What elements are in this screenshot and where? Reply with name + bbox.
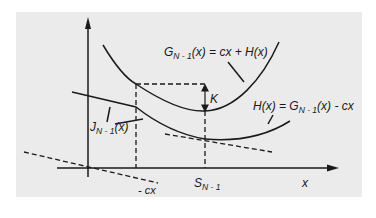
k-arrow-head-bottom <box>202 105 208 111</box>
h-leader <box>268 115 273 124</box>
s-label: SN - 1 <box>194 177 220 192</box>
neg-cx-label: - cx <box>138 185 156 196</box>
g-leader <box>228 62 244 82</box>
x-axis-label: x <box>302 177 308 189</box>
tangent-dashed <box>165 134 272 152</box>
h-curve <box>205 121 290 140</box>
h-label: H(x) = GN - 1(x) - cx <box>253 100 354 115</box>
k-arrow-head-top <box>202 85 208 91</box>
x-axis-arrow-icon <box>327 165 339 172</box>
y-axis-arrow-icon <box>85 17 91 29</box>
j-leader-1 <box>107 107 110 122</box>
j-label: JN - 1(x) <box>90 121 128 136</box>
k-label: K <box>210 93 218 105</box>
g-label: GN - 1(x) = cx + H(x) <box>164 46 268 61</box>
